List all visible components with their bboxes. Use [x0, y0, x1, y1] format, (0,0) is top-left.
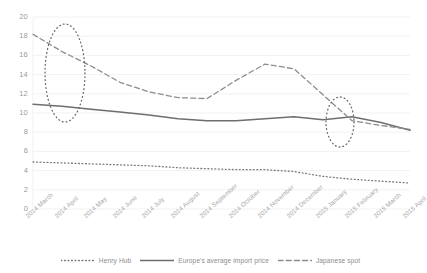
legend-label: Japanese spot — [316, 257, 360, 264]
series-line-henry-hub — [33, 162, 410, 183]
legend-swatch-solid — [140, 257, 174, 264]
legend-item-henry-hub[interactable]: Henry Hub — [61, 257, 131, 264]
legend-swatch-dotted — [61, 257, 95, 264]
legend-swatch-dashed — [278, 257, 312, 264]
legend-label: Henry Hub — [99, 257, 131, 264]
legend-item-europe-s-average-import-price[interactable]: Europe's average import price — [140, 257, 269, 264]
legend-label: Europe's average import price — [178, 257, 269, 264]
y-tick-label: 16 — [6, 51, 28, 59]
y-tick-label: 4 — [6, 167, 28, 175]
legend-item-japanese-spot[interactable]: Japanese spot — [278, 257, 360, 264]
ellipse-february-2015-annotation — [326, 97, 354, 147]
gridlines — [33, 17, 410, 209]
y-tick-label: 6 — [6, 147, 28, 155]
annotation-layer — [45, 24, 354, 147]
y-tick-label: 2 — [6, 186, 28, 194]
series-layer — [33, 34, 410, 183]
chart-legend: Henry HubEurope's average import priceJa… — [0, 252, 421, 268]
y-tick-label: 18 — [6, 32, 28, 40]
y-tick-label: 12 — [6, 90, 28, 98]
y-tick-label: 14 — [6, 71, 28, 79]
y-tick-label: 20 — [6, 13, 28, 21]
y-tick-label: 10 — [6, 109, 28, 117]
y-tick-label: 8 — [6, 128, 28, 136]
